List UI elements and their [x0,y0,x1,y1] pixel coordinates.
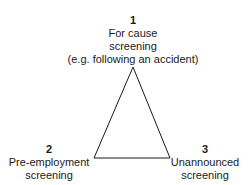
vertex-1-label: 1 For cause screening (e.g. following an… [50,14,216,66]
vertex-2-number: 2 [6,143,92,156]
vertex-3-number: 3 [170,143,240,156]
vertex-3-label: 3 Unannounced screening [170,143,240,182]
vertex-2-label: 2 Pre-employment screening [6,143,92,182]
vertex-1-number: 1 [50,14,216,27]
